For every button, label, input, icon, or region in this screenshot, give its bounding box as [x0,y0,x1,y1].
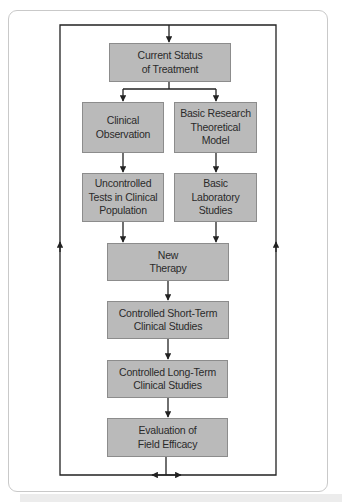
node-label: Clinical Observation [96,114,150,141]
node-label: Controlled Long-Term Clinical Studies [119,366,216,393]
node-label: Basic Laboratory Studies [191,177,239,218]
node-short-term: Controlled Short-Term Clinical Studies [107,301,229,339]
node-label: Current Status of Treatment [138,49,203,76]
node-clinical-observation: Clinical Observation [82,102,164,153]
node-uncontrolled-tests: Uncontrolled Tests in Clinical Populatio… [82,173,164,222]
node-new-therapy: New Therapy [107,243,229,281]
node-label: Evaluation of Field Efficacy [138,424,197,451]
node-long-term: Controlled Long-Term Clinical Studies [107,360,228,398]
node-label: Uncontrolled Tests in Clinical Populatio… [89,177,158,218]
node-current-status: Current Status of Treatment [109,43,231,82]
node-basic-research: Basic Research Theoretical Model [174,102,257,153]
node-label: Basic Research Theoretical Model [180,107,251,148]
node-evaluation: Evaluation of Field Efficacy [107,418,228,457]
node-label: Controlled Short-Term Clinical Studies [119,307,218,334]
node-basic-lab: Basic Laboratory Studies [174,173,257,222]
node-label: New Therapy [149,249,186,276]
